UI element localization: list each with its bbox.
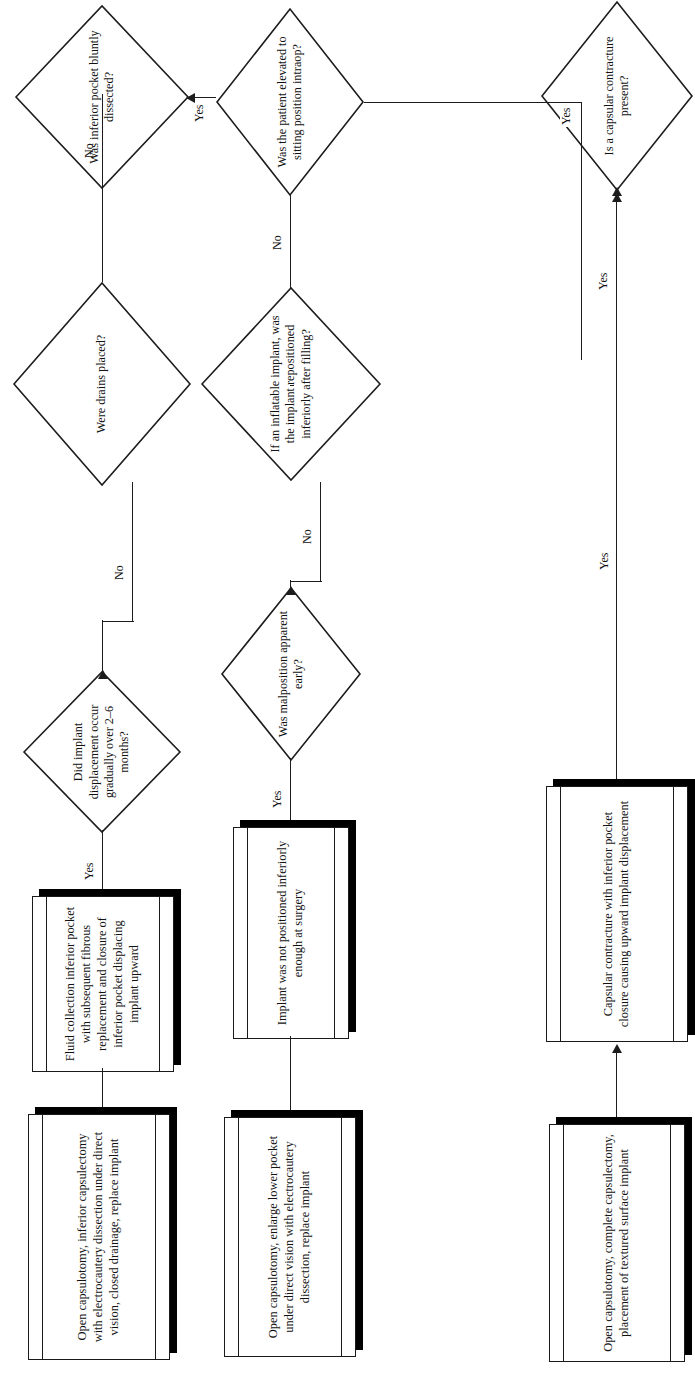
- decision-malposition-early[interactable]: Was malposition apparent early?: [220, 586, 362, 762]
- edge-sitting-yes-across: [581, 102, 582, 360]
- edge-label-yes-blunt: Yes: [193, 103, 205, 124]
- cause-text: Implant was not positioned inferiorly en…: [275, 837, 307, 1029]
- edge-sitting-yes-down: [364, 102, 582, 103]
- edge-label-yes-gradual: Yes: [83, 861, 95, 882]
- edge-gradual-yes: [102, 830, 103, 892]
- decision-label: Was malposition apparent early?: [276, 602, 307, 746]
- edge-cause-to-correction-capsular: [616, 1048, 617, 1126]
- edge-label-no-inflatable: No: [301, 527, 313, 546]
- arrowhead-capsular-yes-hidden: [612, 187, 622, 196]
- decision-drains-placed[interactable]: Were drains placed?: [12, 281, 192, 487]
- arrowhead-into-malposition: [286, 586, 296, 595]
- edge-label-no-sitting: No: [271, 233, 283, 252]
- edge-label-yes-sitting-down: Yes: [560, 106, 572, 127]
- edge-inflatable-no-riser: [290, 581, 322, 582]
- decision-label: Is a capsular contracture present?: [602, 15, 633, 177]
- cause-text: Fluid collection inferior pocket with su…: [63, 906, 142, 1062]
- correction-box-textured-implant[interactable]: Open capsulotomy, complete capsulectomy,…: [549, 1124, 685, 1362]
- edge-drains-no-riser: [102, 621, 134, 622]
- edge-label-yes-capsular: Yes: [597, 271, 609, 292]
- edge-inflatable-no: [320, 482, 321, 582]
- decision-label: Were drains placed?: [94, 298, 109, 470]
- decision-pocket-bluntly-dissected[interactable]: Was inferior pocket bluntly dissected?: [14, 4, 190, 190]
- decision-capsular-contracture[interactable]: Is a capsular contracture present?: [540, 0, 694, 192]
- cause-box-fluid-collection[interactable]: Fluid collection inferior pocket with su…: [32, 896, 174, 1072]
- box-body: Open capsulotomy, inferior capsulectomy …: [28, 1114, 170, 1360]
- edge-sitting-no: [290, 194, 291, 290]
- correction-box-enlarge-lower-pocket[interactable]: Open capsulotomy, enlarge lower pocket u…: [224, 1117, 356, 1357]
- correction-text: Open capsulotomy, enlarge lower pocket u…: [266, 1127, 314, 1347]
- decision-label: Did implant displacement occur gradually…: [71, 684, 133, 820]
- box-body: Open capsulotomy, enlarge lower pocket u…: [224, 1117, 356, 1357]
- decision-label: Was inferior pocket bluntly dissected?: [87, 23, 118, 171]
- cause-box-capsular-contracture[interactable]: Capsular contracture with inferior pocke…: [546, 786, 688, 1042]
- correction-text: Open capsulotomy, complete capsulectomy,…: [601, 1134, 633, 1352]
- arrowhead-into-gradual: [98, 670, 108, 679]
- correction-text: Open capsulotomy, inferior capsulectomy …: [75, 1124, 123, 1350]
- decision-label: If an inflatable implant, was the implan…: [268, 302, 314, 466]
- box-body: Open capsulotomy, complete capsulectomy,…: [549, 1124, 685, 1362]
- edge-label-yes-malposition: Yes: [271, 789, 283, 810]
- edge-blunt-yes: [102, 186, 103, 282]
- edge-capsular-yes: [616, 188, 617, 782]
- decision-sitting-position[interactable]: Was the patient elevated to sitting posi…: [215, 7, 365, 197]
- edge-cause-to-correction-implant: [290, 1036, 291, 1120]
- edge-label-yes-to-cause: Yes: [598, 551, 610, 572]
- edge-malposition-yes: [290, 758, 291, 822]
- cause-text: Capsular contracture with inferior pocke…: [601, 796, 633, 1032]
- decision-gradual-displacement[interactable]: Did implant displacement occur gradually…: [22, 670, 182, 834]
- edge-drains-no: [132, 482, 133, 622]
- edge-label-no-drains: No: [113, 563, 125, 582]
- box-body: Capsular contracture with inferior pocke…: [546, 786, 688, 1042]
- decision-inflatable-repositioned[interactable]: If an inflatable implant, was the implan…: [200, 286, 382, 482]
- decision-label: Was the patient elevated to sitting posi…: [275, 28, 306, 176]
- correction-box-inferior-capsulectomy[interactable]: Open capsulotomy, inferior capsulectomy …: [28, 1114, 170, 1360]
- box-body: Fluid collection inferior pocket with su…: [32, 896, 174, 1072]
- arrowhead-into-sitting: [186, 93, 195, 103]
- box-body: Implant was not positioned inferiorly en…: [233, 827, 349, 1039]
- cause-box-implant-not-positioned[interactable]: Implant was not positioned inferiorly en…: [233, 827, 349, 1039]
